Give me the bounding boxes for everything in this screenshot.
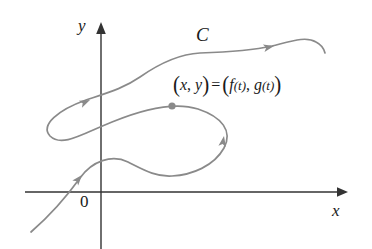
rhs-comma: ,	[246, 76, 254, 93]
lhs-y-symbol: y	[195, 76, 202, 93]
rhs-open-paren: (	[222, 73, 229, 96]
rhs-f-argument: (t)	[234, 78, 246, 93]
x-axis-label: x	[332, 202, 340, 219]
y-axis-label: y	[78, 17, 86, 34]
figure-canvas	[0, 0, 372, 249]
curve-point-marker	[168, 102, 175, 109]
rhs-g-argument: (t)	[262, 78, 274, 93]
lhs-open-paren: (	[173, 73, 180, 96]
curve-label-c: C	[196, 25, 209, 44]
parametric-curve-figure: y x 0 C (x, y)=(f(t), g(t))	[0, 0, 372, 249]
figure-background	[0, 0, 372, 249]
origin-label: 0	[80, 193, 89, 210]
equals-sign: =	[209, 76, 222, 93]
lhs-comma: ,	[187, 76, 195, 93]
rhs-close-paren: )	[274, 73, 281, 96]
lhs-close-paren: )	[202, 73, 209, 96]
rhs-g-symbol: g	[254, 76, 262, 93]
point-parametrization-label: (x, y)=(f(t), g(t))	[173, 73, 281, 94]
